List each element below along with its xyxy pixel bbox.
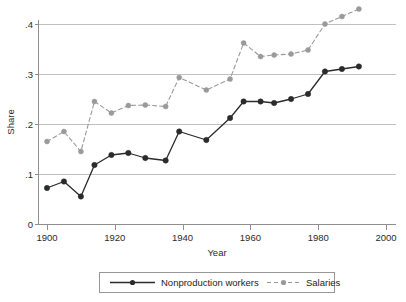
series-1 [44,64,361,199]
data-point [241,99,246,104]
x-axis-tick-labels: 190019201940196019802000 [36,232,396,243]
data-point [288,96,293,101]
y-tick-label-0: 0 [28,219,33,230]
x-tick-label-2: 1940 [172,232,193,243]
y-tick-label-2: .2 [25,119,33,130]
x-axis-title: Year [207,247,226,258]
axes [39,20,397,225]
data-point [177,129,182,134]
data-point [271,100,276,105]
y-tick-label-1: .1 [25,169,33,180]
data-point [44,185,49,190]
data-point [322,69,327,74]
x-tick-label-1: 1920 [104,232,125,243]
data-point [126,150,131,155]
share-line-chart: 190019201940196019802000 0.1.2.3.4 Share… [0,0,406,302]
x-tick-label-5: 2000 [375,232,396,243]
data-point [78,149,83,154]
data-series-layer [44,7,361,200]
y-tick-label-4: .4 [25,19,33,30]
data-point [204,88,209,93]
data-point [258,99,263,104]
data-point [109,152,114,157]
data-point [92,162,97,167]
series-2 [45,7,362,155]
data-point [228,77,233,82]
legend-label-2: Salaries [306,277,341,288]
data-point [78,194,83,199]
data-point [143,103,148,108]
data-point [322,22,327,27]
data-point [227,115,232,120]
legend-marker-1 [130,280,135,285]
data-point [272,53,277,58]
data-point [356,64,361,69]
data-point [204,137,209,142]
data-point [163,158,168,163]
legend-label-1: Nonproduction workers [161,277,259,288]
y-axis-tick-labels: 0.1.2.3.4 [25,19,38,230]
data-point [241,41,246,46]
series-line-1 [47,67,359,197]
data-point [306,48,311,53]
data-point [126,103,131,108]
data-point [143,155,148,160]
data-point [61,129,66,134]
legend-marker-2 [281,280,286,285]
data-point [258,54,263,59]
data-point [305,91,310,96]
x-axis-ticks [48,225,387,230]
x-tick-label-4: 1980 [308,232,329,243]
data-point [45,139,50,144]
data-point [163,104,168,109]
data-point [109,111,114,116]
chart-figure: 190019201940196019802000 0.1.2.3.4 Share… [0,0,406,302]
y-axis-title: Share [5,109,16,134]
data-point [289,52,294,57]
data-point [356,7,361,12]
gridlines [39,25,397,225]
x-tick-label-0: 1900 [36,232,57,243]
series-line-2 [47,9,359,152]
data-point [61,179,66,184]
data-point [92,99,97,104]
data-point [177,75,182,80]
chart-legend: Nonproduction workersSalaries [100,273,341,293]
data-point [339,14,344,19]
data-point [339,66,344,71]
x-tick-label-3: 1960 [240,232,261,243]
y-tick-label-3: .3 [25,69,33,80]
